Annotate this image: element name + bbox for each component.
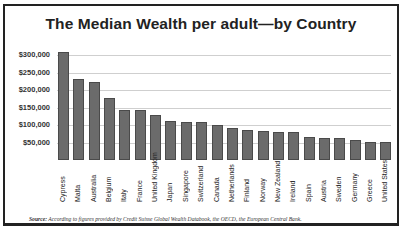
plot-area: [57, 50, 397, 160]
x-tick-label: Australia: [90, 162, 97, 202]
x-tick-label: Netherlands: [228, 162, 235, 202]
bar: [380, 142, 391, 160]
x-tick-label: Italy: [120, 162, 127, 202]
y-tick-label: $100,000: [5, 120, 50, 129]
gridline: [57, 90, 391, 91]
bar: [73, 79, 84, 160]
x-tick-label: France: [136, 162, 143, 202]
y-tick-label: $250,000: [5, 68, 50, 77]
gridline: [57, 73, 391, 74]
bar: [181, 122, 192, 160]
x-tick-label: Finland: [243, 162, 250, 202]
bar: [196, 122, 207, 160]
source-note: Source: According to figures provided by…: [29, 216, 302, 222]
x-tick-label: Cypress: [59, 162, 66, 202]
x-tick-label: Ireland: [289, 162, 296, 202]
y-tick-label: $200,000: [5, 85, 50, 94]
x-tick-label: Greece: [366, 162, 373, 202]
x-tick-label: Austria: [320, 162, 327, 202]
x-tick-label: New Zealand: [274, 162, 281, 202]
bar: [334, 138, 345, 160]
bar: [119, 110, 130, 160]
bar: [319, 138, 330, 160]
y-tick-label: $150,000: [5, 103, 50, 112]
bar: [212, 125, 223, 160]
bar: [89, 82, 100, 160]
x-tick-label: Malta: [74, 162, 81, 202]
bar: [258, 131, 269, 160]
bar: [273, 132, 284, 160]
x-tick-label: Canada: [213, 162, 220, 202]
x-tick-label: Singapore: [182, 162, 189, 202]
x-tick-label: Sweden: [335, 162, 342, 202]
x-tick-label: Germany: [351, 162, 358, 202]
bar: [58, 52, 69, 161]
y-tick-label: $300,000: [5, 50, 50, 59]
chart-frame: The Median Wealth per adult—by Country S…: [3, 4, 399, 226]
chart-title: The Median Wealth per adult—by Country: [5, 15, 397, 33]
x-tick-label: Spain: [305, 162, 312, 202]
x-tick-label: Switzerland: [197, 162, 204, 202]
bar: [242, 130, 253, 160]
bar: [104, 98, 115, 160]
source-text: According to figures provided by Credit …: [47, 216, 302, 222]
source-label: Source:: [29, 216, 47, 222]
x-tick-label: United States: [381, 162, 388, 202]
x-tick-label: United Kingdom: [151, 162, 158, 202]
x-tick-label: Norway: [259, 162, 266, 202]
bar: [304, 137, 315, 160]
y-tick-label: $50,000: [5, 138, 50, 147]
bar: [288, 132, 299, 160]
bar: [227, 128, 238, 160]
x-tick-label: Japan: [166, 162, 173, 202]
bar: [135, 110, 146, 160]
x-tick-label: Belgium: [105, 162, 112, 202]
bar: [365, 142, 376, 160]
bar: [350, 140, 361, 160]
gridline: [57, 55, 391, 56]
bar: [165, 121, 176, 160]
